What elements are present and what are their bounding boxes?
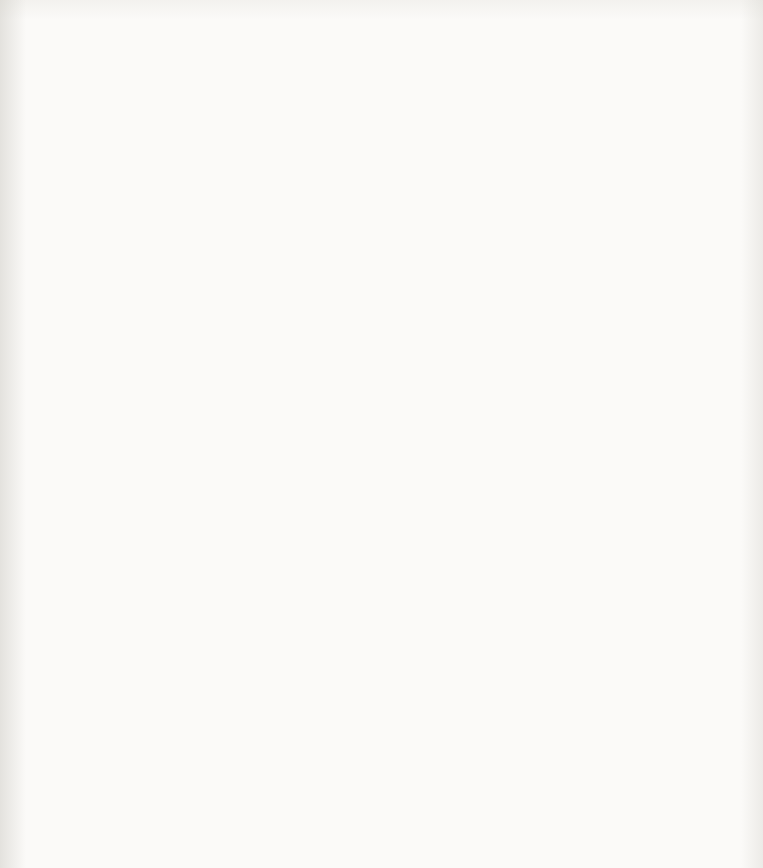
grid-canvas	[0, 0, 763, 868]
page-footer	[0, 812, 763, 858]
spinner-grid-figure	[0, 0, 763, 868]
